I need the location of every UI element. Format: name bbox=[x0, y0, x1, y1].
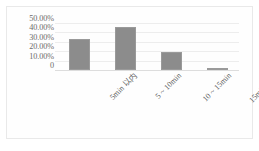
y-axis-tick-label-0: 0 bbox=[50, 62, 54, 70]
bar-3 bbox=[207, 68, 228, 70]
y-axis-tick-label-40: 40.00% bbox=[29, 24, 54, 32]
x-axis-category-label-0: 5min 以内 bbox=[108, 71, 139, 102]
x-axis-category-label-2: 10 ~ 15min bbox=[201, 71, 233, 103]
bar-chart: 50.00% 40.00% 30.00% 20.00% 10.00% 0 5mi… bbox=[0, 0, 259, 151]
bar-0 bbox=[69, 39, 90, 70]
plot-area bbox=[55, 18, 239, 71]
y-axis-tick-label-10: 10.00% bbox=[29, 53, 54, 61]
y-axis-tick-labels: 50.00% 40.00% 30.00% 20.00% 10.00% 0 bbox=[8, 14, 54, 74]
x-axis-category-labels: 5min 以内 5 ~ 10min 10 ~ 15min 15min 以上 bbox=[55, 71, 239, 133]
x-axis-category-label-1: 5 ~ 10min bbox=[154, 71, 184, 101]
y-axis-tick-label-50: 50.00% bbox=[29, 15, 54, 23]
bar-2 bbox=[161, 52, 182, 70]
bar-series bbox=[55, 18, 239, 71]
y-axis-tick-label-20: 20.00% bbox=[29, 43, 54, 51]
y-axis-tick-label-30: 30.00% bbox=[29, 34, 54, 42]
bar-1 bbox=[115, 27, 136, 70]
